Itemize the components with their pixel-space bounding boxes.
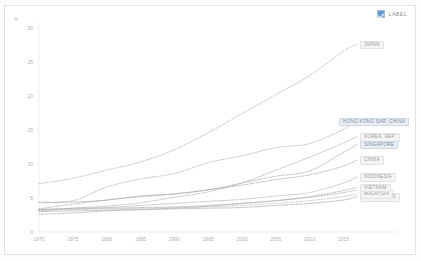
x-tick-label: 2000	[236, 236, 247, 242]
x-tick-label: 1970	[33, 236, 44, 242]
series-end-label[interactable]: HONG KONG SAR, CHINA	[339, 118, 409, 127]
y-tick-label: 15	[27, 127, 33, 133]
x-tick-label: 1975	[67, 236, 78, 242]
chart-app: LABEL % 051015202530 1970197519801985199…	[0, 0, 421, 261]
x-tick-label: 1985	[135, 236, 146, 242]
series-end-label[interactable]: JAPAN	[360, 41, 384, 50]
y-tick-label: 5	[30, 195, 33, 201]
chart-frame: LABEL % 051015202530 1970197519801985199…	[4, 5, 416, 255]
y-tick-label: 0	[30, 229, 33, 235]
y-tick-label: 10	[27, 161, 33, 167]
x-tick-label: 1995	[203, 236, 214, 242]
x-tick-label: 1990	[169, 236, 180, 242]
x-axis: 1970197519801985199019952000200520102015	[33, 232, 397, 242]
x-tick-label: 2005	[270, 236, 281, 242]
y-axis: 051015202530	[27, 22, 39, 235]
series-line	[39, 137, 357, 211]
series-end-label[interactable]: VIETNAM	[360, 184, 391, 193]
y-tick-label: 20	[27, 93, 33, 99]
series-line	[39, 144, 357, 209]
y-tick-label: 30	[27, 25, 33, 31]
plot-area: 051015202530 197019751980198519901995200…	[5, 6, 417, 256]
y-tick-label: 25	[27, 59, 33, 65]
x-tick-label: 1980	[101, 236, 112, 242]
x-tick-label: 2015	[338, 236, 349, 242]
series-line	[39, 177, 357, 210]
series-end-label[interactable]: SINGAPORE	[360, 141, 398, 150]
series-lines	[39, 44, 357, 214]
series-line	[39, 121, 357, 202]
series-end-label[interactable]: CHINA	[360, 156, 384, 165]
series-line	[39, 44, 357, 183]
x-tick-label: 2010	[304, 236, 315, 242]
series-end-label[interactable]: INDONESIA	[360, 173, 396, 182]
